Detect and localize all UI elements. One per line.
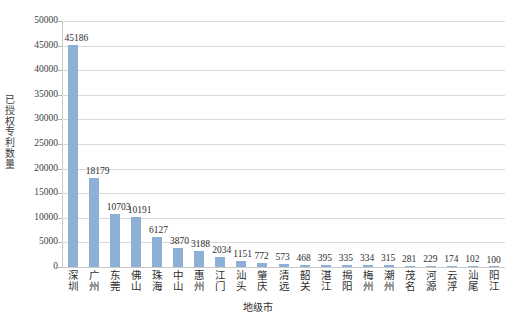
bar-value-label: 18179 — [86, 167, 110, 177]
gridline — [62, 144, 505, 145]
bar[interactable] — [68, 45, 78, 267]
bar[interactable] — [236, 261, 246, 267]
bar-value-label: 334 — [360, 254, 374, 264]
bar[interactable] — [384, 265, 394, 267]
gridline — [62, 169, 505, 170]
y-axis-tick-label: 40000 — [4, 65, 58, 75]
bar[interactable] — [173, 248, 183, 267]
x-axis-category-label: 韶关 — [298, 270, 311, 293]
y-axis-tick-mark — [58, 21, 62, 22]
bar[interactable] — [321, 265, 331, 267]
y-axis-tick-mark — [58, 46, 62, 47]
y-axis-tick-label: 45000 — [4, 41, 58, 51]
bar-value-label: 229 — [423, 255, 437, 265]
x-axis-title: 地级市 — [0, 299, 516, 314]
bar[interactable] — [489, 266, 499, 267]
bar[interactable] — [257, 263, 267, 267]
x-axis-category-label: 潮州 — [382, 270, 395, 293]
bar-value-label: 1151 — [233, 250, 252, 260]
gridline — [62, 46, 505, 47]
bar[interactable] — [279, 264, 289, 267]
bar[interactable] — [468, 266, 478, 267]
bar-value-label: 573 — [276, 253, 290, 263]
x-axis-category-label: 梅州 — [361, 270, 374, 293]
gridline — [62, 193, 505, 194]
x-axis-category-label: 江门 — [214, 270, 227, 293]
y-axis-tick-mark — [58, 193, 62, 194]
gridline — [62, 218, 505, 219]
y-axis-tick-label: 15000 — [4, 188, 58, 198]
x-axis-category-label: 深圳 — [66, 270, 79, 293]
x-axis-category-label: 云浮 — [446, 270, 459, 293]
bar-value-label: 335 — [339, 254, 353, 264]
bar-value-label: 100 — [486, 256, 500, 266]
x-axis-category-label: 佛山 — [129, 270, 142, 293]
bar[interactable] — [426, 266, 436, 267]
x-axis-category-label: 河源 — [425, 270, 438, 293]
x-axis-category-label: 清远 — [277, 270, 290, 293]
bar[interactable] — [300, 265, 310, 267]
bar-value-label: 395 — [318, 254, 332, 264]
y-axis-tick-mark — [58, 218, 62, 219]
gridline — [62, 267, 505, 268]
gridline — [62, 119, 505, 120]
x-axis-category-label: 东莞 — [108, 270, 121, 293]
y-axis-tick-mark — [58, 70, 62, 71]
y-axis-tick-mark — [58, 242, 62, 243]
x-axis-category-label: 茂名 — [404, 270, 417, 293]
bar[interactable] — [110, 214, 120, 267]
y-axis-tick-mark — [58, 267, 62, 268]
bar-value-label: 3870 — [170, 237, 189, 247]
bar-value-label: 281 — [402, 255, 416, 265]
x-axis-category-label: 肇庆 — [256, 270, 269, 293]
y-axis-tick-label: 50000 — [4, 16, 58, 26]
y-axis-tick-mark — [58, 95, 62, 96]
bar[interactable] — [447, 266, 457, 267]
x-axis-category-label: 广州 — [87, 270, 100, 293]
bar[interactable] — [89, 178, 99, 267]
x-axis-category-label: 汕尾 — [467, 270, 480, 293]
y-axis-tick-mark — [58, 119, 62, 120]
bar-value-label: 3188 — [191, 240, 210, 250]
y-axis-tick-label: 5000 — [4, 238, 58, 248]
bar-value-label: 2034 — [212, 246, 231, 256]
gridline — [62, 70, 505, 71]
bar[interactable] — [405, 266, 415, 267]
bar-value-label: 468 — [297, 254, 311, 264]
y-axis-tick-labels: 5000045000400003500030000250002000015000… — [0, 21, 58, 267]
bar[interactable] — [194, 251, 204, 267]
y-axis-tick-mark — [58, 169, 62, 170]
bar[interactable] — [131, 217, 141, 267]
y-axis-tick-label: 25000 — [4, 139, 58, 149]
y-axis-tick-label: 10000 — [4, 213, 58, 223]
x-axis-category-label: 汕头 — [235, 270, 248, 293]
y-axis-tick-label: 30000 — [4, 115, 58, 125]
x-axis-category-label: 惠州 — [193, 270, 206, 293]
x-axis-category-label: 阳江 — [488, 270, 501, 293]
bar[interactable] — [342, 265, 352, 267]
gridline — [62, 21, 505, 22]
bar-value-label: 6127 — [149, 226, 168, 236]
x-axis-category-label: 湛江 — [319, 270, 332, 293]
x-axis-category-label: 揭阳 — [340, 270, 353, 293]
x-axis-category-label: 珠海 — [150, 270, 163, 293]
bar-value-label: 174 — [444, 255, 458, 265]
bar[interactable] — [363, 265, 373, 267]
bar-value-label: 315 — [381, 254, 395, 264]
bar[interactable] — [152, 237, 162, 267]
bar[interactable] — [215, 257, 225, 267]
plot-area: 4518618179107031019161273870318820341151… — [62, 21, 505, 267]
bar-chart: 已授权专利数量 50000450004000035000300002500020… — [0, 0, 516, 322]
gridline — [62, 242, 505, 243]
gridline — [62, 95, 505, 96]
bar-value-label: 45186 — [65, 34, 89, 44]
bar-value-label: 772 — [254, 252, 268, 262]
bar-value-label: 10191 — [128, 206, 152, 216]
y-axis-tick-label: 35000 — [4, 90, 58, 100]
y-axis-tick-label: 20000 — [4, 164, 58, 174]
x-axis-category-label: 中山 — [172, 270, 185, 293]
y-axis-tick-label: 0 — [4, 262, 58, 272]
y-axis-tick-mark — [58, 144, 62, 145]
bar-value-label: 102 — [465, 255, 479, 265]
